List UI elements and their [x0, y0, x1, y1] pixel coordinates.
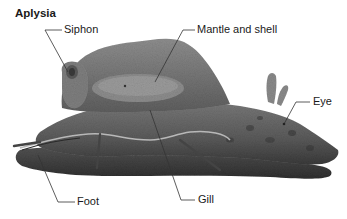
label-siphon: Siphon — [64, 24, 98, 35]
figure-title: Aplysia — [15, 8, 56, 20]
eye-dot — [283, 123, 286, 126]
label-mantle-and-shell: Mantle and shell — [197, 24, 277, 35]
aplysia-illustration — [0, 0, 347, 219]
label-foot: Foot — [77, 196, 99, 207]
rhinophores — [267, 73, 289, 106]
label-eye: Eye — [313, 96, 332, 107]
siphon-leader — [45, 30, 68, 72]
label-gill: Gill — [198, 194, 214, 205]
aplysia-diagram: Aplysia Siphon Mantle and shell Eye Foot… — [0, 0, 347, 219]
mantle-disk — [92, 74, 184, 102]
